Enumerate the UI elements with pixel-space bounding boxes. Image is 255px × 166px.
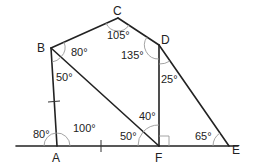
point-label-E: E	[232, 143, 240, 157]
point-label-F: F	[155, 151, 162, 165]
angle-label-C: 105°	[107, 29, 130, 41]
equal-mark-AB	[48, 101, 60, 102]
angle-label-A-right: 100°	[73, 122, 96, 134]
point-label-B: B	[37, 41, 45, 55]
arc-E	[213, 133, 220, 146]
arc-D-lower	[159, 61, 170, 64]
point-label-A: A	[52, 151, 60, 165]
angle-label-A-left: 80°	[33, 128, 50, 140]
arc-A-right	[56, 133, 70, 146]
right-angle-marker	[159, 136, 169, 146]
geometry-diagram: B C D A F E 80° 100° 80° 50° 105° 135° 2…	[0, 0, 255, 166]
segment-DE	[159, 45, 229, 146]
arc-F-left	[138, 132, 143, 146]
angle-label-F-left: 50°	[120, 130, 137, 142]
arc-B-lower	[52, 57, 61, 62]
point-label-D: D	[161, 33, 170, 47]
angle-label-D-lower: 25°	[161, 73, 178, 85]
angle-label-E: 65°	[195, 130, 212, 142]
segment-AB	[51, 48, 57, 146]
arc-B-upper	[61, 42, 65, 57]
point-label-C: C	[113, 4, 122, 18]
arc-F-upper	[143, 125, 159, 132]
angle-label-D-left: 135°	[121, 49, 144, 61]
angle-label-B-upper: 80°	[71, 46, 88, 58]
angle-label-B-lower: 50°	[56, 71, 73, 83]
segment-BF	[51, 48, 159, 146]
angle-label-F-upper: 40°	[139, 110, 156, 122]
